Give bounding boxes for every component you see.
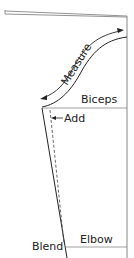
add-arrowhead-icon — [51, 116, 56, 120]
blend-label: Blend — [32, 240, 63, 253]
sleeve-pattern-diagram: Measure Biceps Add Elbow Blend — [0, 0, 134, 258]
biceps-label: Biceps — [81, 93, 117, 106]
top-edge — [5, 10, 127, 17]
add-label: Add — [64, 112, 85, 125]
added-seam-dashed — [50, 110, 64, 244]
elbow-label: Elbow — [80, 233, 113, 246]
arrowhead-right-icon — [117, 28, 124, 33]
arrowhead-left-icon — [40, 95, 47, 100]
